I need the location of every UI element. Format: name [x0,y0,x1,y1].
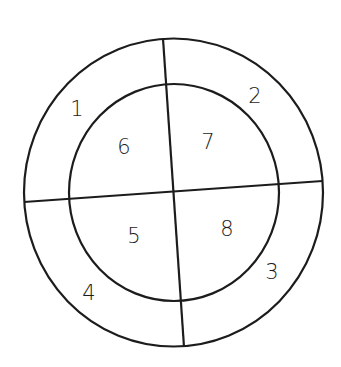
region-label-6: 6 [117,135,130,159]
region-label-3: 3 [265,260,278,284]
region-label-5: 5 [127,224,140,248]
quadrant-circle-diagram: 1 2 3 4 5 6 7 8 [0,0,341,367]
region-label-8: 8 [220,217,233,241]
region-label-2: 2 [248,84,261,108]
region-label-1: 1 [70,97,83,121]
region-label-4: 4 [82,281,95,305]
region-label-7: 7 [201,130,214,154]
